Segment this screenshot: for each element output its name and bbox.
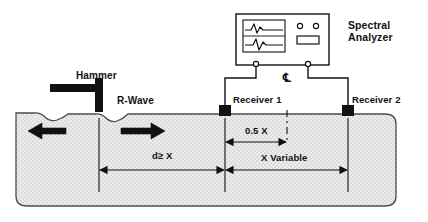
dimension-half-x-label: 0.5 X <box>245 126 268 137</box>
analyzer-screen <box>243 20 285 52</box>
receiver-1-transducer[interactable] <box>219 105 231 116</box>
sasw-test-diagram: Spectral Analyzer Hammer R-Wave Receiver… <box>0 0 428 222</box>
dimension-receiver-spacing-label: X Variable <box>261 153 307 164</box>
analyzer-label-line-1: Spectral <box>348 20 393 32</box>
centerline-symbol-icon: ℄ <box>283 71 291 86</box>
spectral-analyzer-unit[interactable] <box>236 14 329 67</box>
hammer-label: Hammer <box>76 70 117 81</box>
analyzer-display-panel <box>297 36 319 44</box>
receiver-2-transducer[interactable] <box>342 105 354 116</box>
analyzer-label-line-2: Analyzer <box>348 32 393 44</box>
receiver-1-label: Receiver 1 <box>233 95 282 106</box>
concrete-specimen <box>16 113 396 206</box>
dimension-source-distance-label: d≥ X <box>152 151 172 162</box>
cable-to-receiver-2 <box>308 67 348 108</box>
receiver-2-label: Receiver 2 <box>352 95 401 106</box>
spectral-analyzer-label: Spectral Analyzer <box>348 20 393 44</box>
hammer-tool[interactable] <box>50 78 103 112</box>
r-wave-label: R-Wave <box>117 95 154 106</box>
